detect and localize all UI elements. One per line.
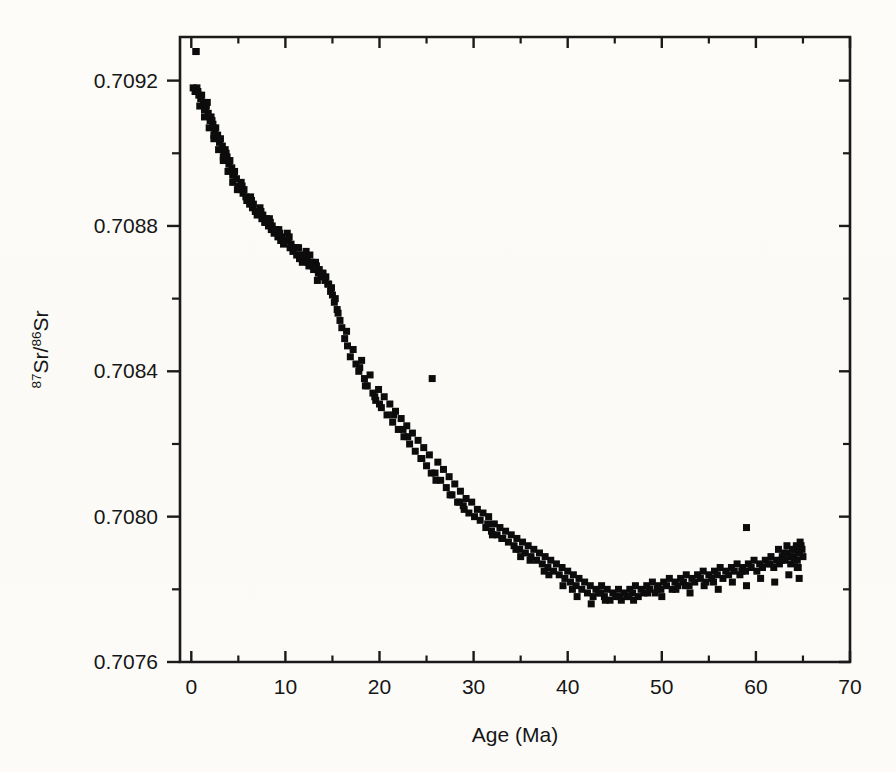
data-point xyxy=(743,582,750,589)
data-point xyxy=(447,491,454,498)
data-point xyxy=(569,586,576,593)
data-point xyxy=(367,371,374,378)
data-point xyxy=(212,124,219,131)
data-point xyxy=(384,411,391,418)
data-point xyxy=(743,524,750,531)
data-point xyxy=(485,513,492,520)
data-point xyxy=(389,419,396,426)
data-point xyxy=(362,382,369,389)
data-point xyxy=(300,252,307,259)
y-tick-label: 0.7076 xyxy=(94,650,158,673)
data-point xyxy=(512,546,519,553)
data-point xyxy=(239,182,246,189)
data-point xyxy=(588,600,595,607)
data-point xyxy=(644,589,651,596)
data-point xyxy=(220,153,227,160)
data-point xyxy=(314,277,321,284)
data-point xyxy=(672,586,679,593)
data-point xyxy=(217,135,224,142)
data-point xyxy=(451,480,458,487)
data-point xyxy=(193,48,200,55)
x-tick-label: 0 xyxy=(185,675,197,698)
data-point xyxy=(785,571,792,578)
data-point xyxy=(328,284,335,291)
data-point xyxy=(738,568,745,575)
data-point xyxy=(517,553,524,560)
data-point xyxy=(429,375,436,382)
data-point xyxy=(559,582,566,589)
data-point xyxy=(456,499,463,506)
data-point xyxy=(210,132,217,139)
data-point xyxy=(443,484,450,491)
data-point xyxy=(715,586,722,593)
data-point xyxy=(358,357,365,364)
data-point xyxy=(248,197,255,204)
data-point xyxy=(257,208,264,215)
data-point xyxy=(418,455,425,462)
figure-page: 0102030405060700.70760.70800.70840.70880… xyxy=(0,0,896,772)
data-point xyxy=(498,535,505,542)
y-axis-title-text: 87Sr/86Sr xyxy=(29,311,52,389)
data-point xyxy=(412,448,419,455)
y-tick-label: 0.7080 xyxy=(94,505,158,528)
data-point xyxy=(541,568,548,575)
data-point xyxy=(404,433,411,440)
scatter-plot: 0102030405060700.70760.70800.70840.70880… xyxy=(0,0,896,772)
x-tick-label: 70 xyxy=(838,675,861,698)
data-point xyxy=(423,462,430,469)
data-point xyxy=(687,589,694,596)
data-point xyxy=(336,317,343,324)
data-point xyxy=(767,560,774,567)
data-point xyxy=(390,411,397,418)
data-point xyxy=(625,593,632,600)
data-point xyxy=(682,582,689,589)
data-point xyxy=(426,451,433,458)
data-point xyxy=(710,579,717,586)
data-point xyxy=(343,328,350,335)
data-point xyxy=(440,466,447,473)
data-point xyxy=(602,597,609,604)
data-point xyxy=(432,477,439,484)
data-point xyxy=(304,259,311,266)
data-point xyxy=(341,335,348,342)
data-point xyxy=(276,230,283,237)
data-point xyxy=(194,88,201,95)
data-point xyxy=(350,346,357,353)
data-point xyxy=(796,575,803,582)
data-point xyxy=(347,353,354,360)
y-tick-label: 0.7092 xyxy=(94,69,158,92)
data-point xyxy=(229,172,236,179)
data-point xyxy=(434,459,441,466)
data-point xyxy=(420,444,427,451)
data-point xyxy=(771,579,778,586)
data-point xyxy=(654,586,661,593)
data-point xyxy=(597,589,604,596)
data-point xyxy=(616,593,623,600)
data-point xyxy=(729,579,736,586)
chart-canvas: 0102030405060700.70760.70800.70840.70880… xyxy=(0,0,896,772)
data-point xyxy=(457,488,464,495)
y-axis-title: 87Sr/86Sr xyxy=(29,311,52,389)
y-tick-label: 0.7084 xyxy=(94,359,159,382)
data-point xyxy=(204,99,211,106)
data-point xyxy=(484,520,491,527)
data-point xyxy=(477,517,484,524)
data-point xyxy=(375,386,382,393)
y-tick-label: 0.7088 xyxy=(94,214,158,237)
data-point xyxy=(371,393,378,400)
data-point xyxy=(398,415,405,422)
data-point xyxy=(381,393,388,400)
data-point xyxy=(446,473,453,480)
data-point xyxy=(295,244,302,251)
data-point xyxy=(701,582,708,589)
data-point xyxy=(386,401,393,408)
data-point xyxy=(400,426,407,433)
data-point xyxy=(775,546,782,553)
data-point xyxy=(461,506,468,513)
data-point xyxy=(306,252,313,259)
data-point xyxy=(757,575,764,582)
data-point xyxy=(319,270,326,277)
data-point xyxy=(356,364,363,371)
data-point xyxy=(778,557,785,564)
data-point xyxy=(376,401,383,408)
